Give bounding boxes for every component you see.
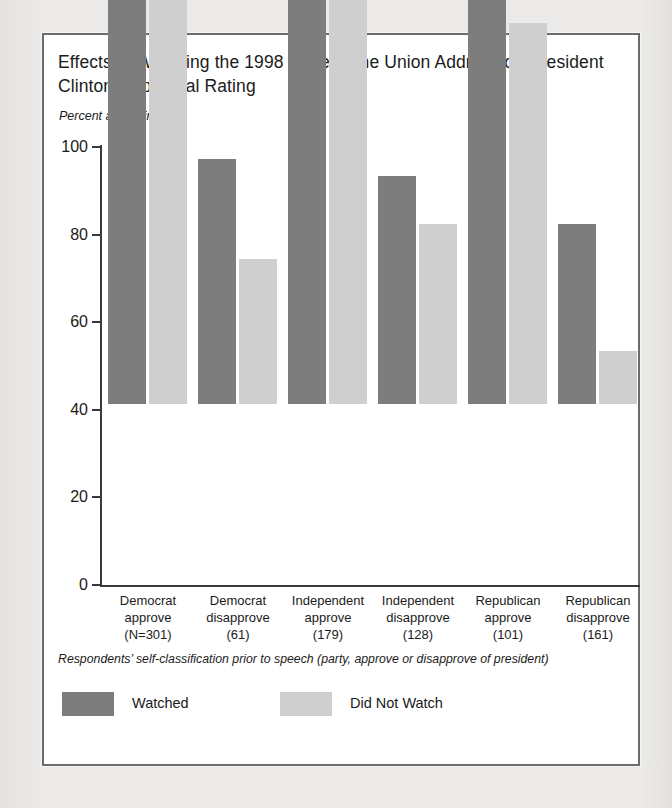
bar-watched [468, 0, 506, 404]
bar-did-not-watch [239, 259, 277, 404]
bar-watched [108, 0, 146, 404]
bar-did-not-watch [149, 0, 187, 404]
y-axis-tick-label: 100 [44, 138, 88, 156]
figure-footnote: Respondents’ self-classification prior t… [58, 652, 630, 666]
bar-did-not-watch [599, 351, 637, 404]
bar-did-not-watch [329, 0, 367, 404]
bar-did-not-watch [509, 23, 547, 404]
bar-group [554, 35, 642, 587]
x-axis-category-line: (161) [543, 626, 653, 643]
y-axis-tick-label: 80 [44, 226, 88, 244]
bar-group [374, 35, 462, 587]
bar-group [464, 35, 552, 587]
x-axis-category-label: Republicandisapprove(161) [543, 592, 653, 643]
x-axis-category-line: disapprove [543, 609, 653, 626]
bar-did-not-watch [419, 224, 457, 404]
y-axis-tick-label: 20 [44, 488, 88, 506]
x-axis-category-line: Republican [543, 592, 653, 609]
legend-label: Did Not Watch [350, 695, 443, 711]
legend-swatch [280, 692, 332, 716]
bar-watched [558, 224, 596, 404]
y-axis-tick-label: 40 [44, 401, 88, 419]
chart-legend: WatchedDid Not Watch [62, 690, 622, 730]
figure-panel: Effects of Watching the 1998 State of th… [42, 33, 640, 766]
y-axis-tick-label: 60 [44, 313, 88, 331]
bar-watched [198, 159, 236, 404]
bar-watched [378, 176, 416, 404]
bar-group [194, 35, 282, 587]
bar-group [284, 35, 372, 587]
y-axis-tick-label: 0 [44, 576, 88, 594]
legend-label: Watched [132, 695, 189, 711]
bar-watched [288, 0, 326, 404]
legend-swatch [62, 692, 114, 716]
bar-group [104, 35, 192, 587]
